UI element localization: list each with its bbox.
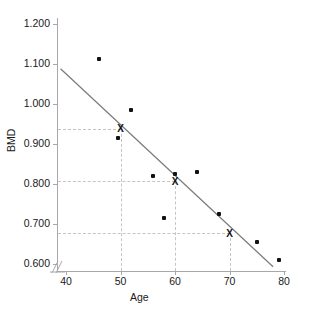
scatter-chart: 0.6000.7000.8000.9001.0001.1001.200 4050… bbox=[0, 0, 309, 314]
data-point bbox=[97, 57, 101, 61]
x-axis-title: Age bbox=[130, 292, 149, 303]
data-point bbox=[151, 174, 155, 178]
reference-marker-x: X bbox=[116, 124, 125, 133]
plot-area: 0.6000.7000.8000.9001.0001.1001.200 4050… bbox=[0, 0, 309, 314]
data-point bbox=[195, 170, 199, 174]
data-point bbox=[129, 108, 133, 112]
data-point bbox=[217, 212, 221, 216]
data-point bbox=[255, 240, 259, 244]
reference-marker-x: X bbox=[225, 229, 234, 238]
reference-marker-x: X bbox=[171, 177, 180, 186]
data-point bbox=[162, 216, 166, 220]
y-axis-title: BMD bbox=[6, 115, 17, 165]
data-point bbox=[116, 136, 120, 140]
regression-line bbox=[0, 0, 309, 314]
data-point bbox=[277, 258, 281, 262]
